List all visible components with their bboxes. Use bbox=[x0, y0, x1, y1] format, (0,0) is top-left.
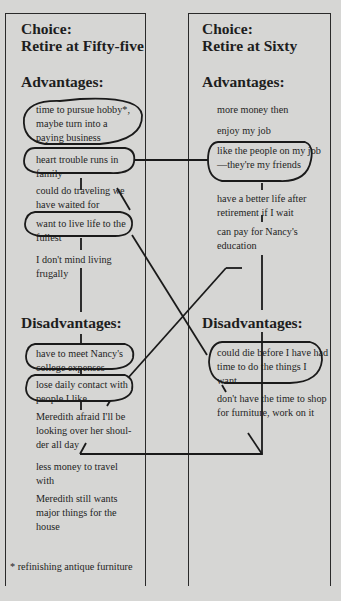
circle-could-die bbox=[209, 342, 322, 383]
circle-nancy-college bbox=[26, 344, 133, 369]
circle-hobby bbox=[24, 99, 142, 144]
circle-like-people bbox=[208, 142, 312, 181]
circle-heart-trouble bbox=[24, 148, 134, 173]
circle-lose-contact bbox=[26, 375, 132, 401]
hand-drawn-annotations bbox=[0, 0, 341, 601]
circle-live-life bbox=[25, 212, 132, 236]
